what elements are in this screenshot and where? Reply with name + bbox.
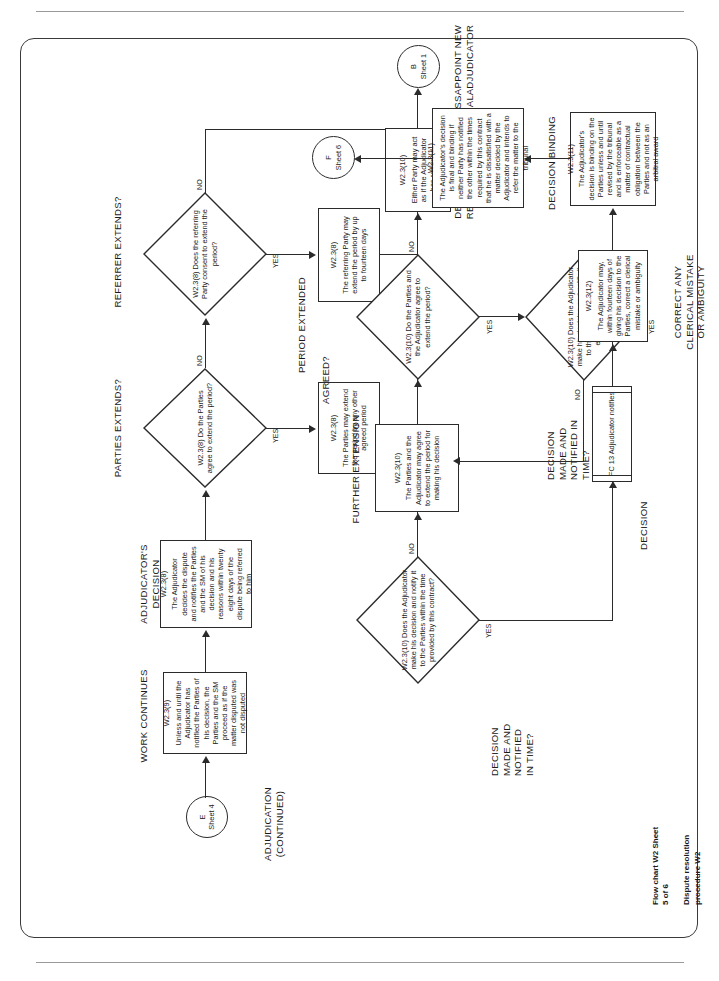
- page-bottom-rule: [36, 962, 684, 963]
- node-parties-extends-q: W2.3(8) Do the Parties agree to extend t…: [143, 368, 267, 488]
- header-decision-made-notified-1: DECISION MADE AND NOTIFIED IN TIME?: [489, 684, 535, 776]
- header-decision-made-notified-2: DECISION MADE AND NOTIFIED IN TIME?: [545, 390, 591, 480]
- connector-exit-f: F Sheet 6: [312, 136, 355, 179]
- arrow-parties-yes: [309, 425, 316, 433]
- label-referrer-extends-no: NO: [196, 179, 204, 190]
- header-adjudication: ADJUDICATION (CONTINUED): [262, 776, 285, 872]
- label-q1-no: NO: [408, 543, 416, 554]
- arrow-work-to-decision: [202, 630, 210, 637]
- line-final-to-f: [360, 158, 432, 159]
- label-q1-yes: YES: [485, 624, 493, 638]
- node-clerical-mistake-text: The Adjudicator may, within fourteen day…: [596, 256, 642, 337]
- connector-exit-b: B Sheet 1: [397, 45, 440, 88]
- arrow-clerical-to-binding: [609, 208, 617, 215]
- header-referrer-extends: REFERRER EXTENDS?: [112, 188, 124, 316]
- header-further-extension: FURTHER EXTENSION: [350, 408, 362, 530]
- header-agreed: AGREED?: [320, 350, 332, 410]
- node-work-continues-text: Unless and until the Adjudicator has not…: [174, 678, 247, 747]
- node-referrer-extend-action-ref: W2.3(8): [329, 213, 338, 297]
- line-decision-to-parties-q: [205, 496, 206, 540]
- line-q1-yes-v: [479, 620, 613, 621]
- node-agreed-q-ref: W2.3(10): [404, 333, 413, 363]
- arrow-fc13-to-clerical: [609, 344, 617, 351]
- header-period-extended: PERIOD EXTENDED: [296, 270, 308, 380]
- node-adjudicators-decision: W2.3(8) The Adjudicator decides the disp…: [160, 540, 252, 628]
- line-agreed-no: [417, 219, 418, 255]
- line-parties-no: [205, 324, 206, 368]
- node-decision-binding-text: The Adjudicator's decision is binding on…: [577, 118, 660, 201]
- arrow-bus-to-fc13: [609, 481, 617, 488]
- node-fc13-ref: FC 13: [607, 456, 616, 476]
- arrow-agreed-no: [414, 213, 422, 220]
- node-adjudicators-decision-ref: W2.3(8): [159, 545, 168, 623]
- arrow-q2-no-up: [453, 457, 460, 465]
- line-e-to-work: [205, 762, 206, 798]
- node-further-extension: W2.3(10) The Parties and the Adjudicator…: [375, 424, 459, 512]
- header-parties-extends: PARTIES EXTENDS?: [112, 368, 124, 488]
- node-clerical-mistake-ref: W2.3(12): [584, 255, 593, 337]
- connector-exit-f-letter: F: [324, 155, 333, 160]
- line-binding-to-final-v: [530, 158, 570, 159]
- node-adjudicators-decision-text: The Adjudicator decides the dispute and …: [170, 546, 253, 621]
- node-decision-final: W2.3(11) The Adjudicator's decision is f…: [432, 108, 524, 208]
- header-decision-binding: DECISION BINDING: [546, 106, 558, 220]
- header-work-continues: WORK CONTINUES: [138, 664, 150, 768]
- node-fc13: FC 13 Adjudicator notifies: [592, 386, 632, 482]
- node-fc13-text: Adjudicator notifies: [607, 392, 616, 454]
- label-referrer-extends-yes: YES: [272, 254, 280, 268]
- label-parties-extends-no: NO: [196, 355, 204, 366]
- node-clerical-mistake: W2.3(12) The Adjudicator may, within fou…: [578, 250, 648, 342]
- label-q2-no: NO: [574, 389, 582, 400]
- connector-entry-e: E Sheet 4: [186, 796, 228, 838]
- node-decision-binding-ref: W2.3(11): [566, 117, 575, 201]
- header-adjudicators-decision: ADJUDICATOR'S DECISION: [138, 522, 161, 646]
- line-fc13-to-clerical: [612, 350, 613, 386]
- node-decision-final-text: The Adjudicator's decision is final and …: [438, 113, 530, 203]
- header-correct-clerical: CORRECT ANY CLERICAL MISTAKE OR AMBIGUIT…: [672, 236, 707, 368]
- line-further-to-agreed: [417, 386, 418, 424]
- arrow-either-to-b: [414, 88, 422, 95]
- node-decision-in-time-q1-ref: W2.3(10): [400, 640, 409, 670]
- connector-entry-letter: E: [198, 815, 207, 820]
- line-q2-no-h: [583, 380, 584, 462]
- node-decision-binding: W2.3(11) The Adjudicator's decision is b…: [570, 112, 656, 206]
- line-referrer-yes-v: [266, 254, 310, 255]
- label-agreed-no: NO: [408, 241, 416, 252]
- arrow-decision-to-parties-q: [202, 490, 210, 497]
- node-further-extension-ref: W2.3(10): [393, 429, 402, 507]
- arrow-parties-no: [202, 318, 210, 325]
- arrow-final-to-f: [354, 155, 361, 163]
- node-referrer-extends-q: W2.3(8) Does the referring Party consent…: [143, 192, 267, 316]
- label-agreed-yes: YES: [486, 320, 494, 334]
- line-work-to-decision: [205, 636, 206, 672]
- arrow-referrer-yes: [309, 251, 316, 259]
- line-q2-no-v: [460, 461, 584, 462]
- flowchart-canvas: ADJUDICATION (CONTINUED) E Sheet 4 WORK …: [0, 0, 660, 880]
- node-agreed-q: W2.3(10) Do the Parties and the Adjudica…: [356, 254, 480, 380]
- flowchart-page: Flow chart W2 Sheet 5 of 6 Dispute resol…: [0, 0, 719, 981]
- node-work-continues-ref: W2.3(9): [162, 677, 171, 749]
- header-decision: DECISION: [638, 484, 650, 550]
- node-either-party-resigned-ref: W2.3(10): [398, 133, 407, 207]
- node-work-continues: W2.3(9) Unless and until the Adjudicator…: [163, 672, 247, 754]
- arrow-further-to-agreed: [414, 380, 422, 387]
- connector-entry-sheet: Sheet 4: [207, 804, 216, 829]
- node-parties-extends-q-ref: W2.3(8): [196, 439, 205, 465]
- connector-exit-b-letter: B: [409, 64, 418, 69]
- node-decision-in-time-q1: W2.3(10) Does the Adjudicator make his d…: [356, 556, 480, 684]
- node-decision-in-time-q2-ref: W2.3(10): [566, 337, 575, 367]
- node-further-extension-text: The Parties and the Adjudicator may agre…: [404, 430, 441, 506]
- line-clerical-to-binding: [612, 214, 613, 250]
- line-parties-yes-v: [266, 428, 310, 429]
- connector-exit-f-sheet: Sheet 6: [334, 145, 343, 170]
- line-either-to-b: [417, 94, 418, 128]
- line-agreed-yes-v: [479, 316, 519, 317]
- arrow-q1-no: [414, 513, 422, 520]
- line-q1-yes-h: [612, 482, 613, 621]
- label-q2-yes: YES: [648, 320, 656, 334]
- line-q1-no: [417, 519, 418, 557]
- arrow-e-to-work: [202, 756, 210, 763]
- label-parties-extends-yes: YES: [272, 429, 280, 443]
- line-referrer-no-h: [205, 129, 206, 193]
- connector-exit-b-sheet: Sheet 1: [419, 54, 428, 79]
